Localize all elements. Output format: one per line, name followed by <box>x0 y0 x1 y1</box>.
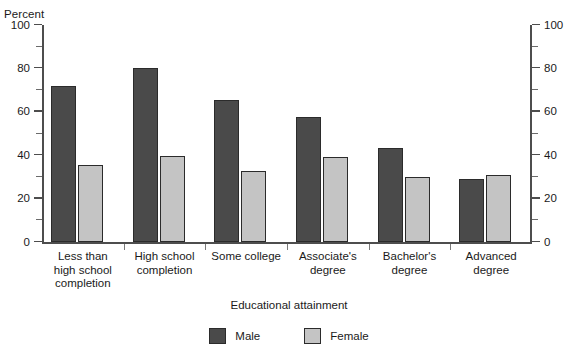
y-tick-right-70 <box>532 89 538 90</box>
x-axis-category-labels: Less than high school completionHigh sch… <box>42 250 532 296</box>
y-tick-label-left-60: 60 <box>17 106 30 118</box>
y-tick-left-20 <box>34 197 42 199</box>
y-axis-left-line <box>42 25 44 242</box>
y-tick-left-90 <box>36 46 42 47</box>
y-tick-right-90 <box>532 46 538 47</box>
y-tick-left-10 <box>36 219 42 220</box>
chart-legend: MaleFemale <box>0 328 578 344</box>
bar-male-1 <box>133 68 158 242</box>
bar-male-2 <box>214 100 239 242</box>
y-tick-left-100 <box>34 24 42 26</box>
y-axis-right-line <box>530 25 532 242</box>
bar-male-5 <box>459 179 484 242</box>
y-tick-label-right-60: 60 <box>544 106 557 118</box>
x-axis-title: Educational attainment <box>0 299 578 311</box>
y-tick-right-10 <box>532 219 538 220</box>
x-category-label-5: Advanced degree <box>450 250 532 277</box>
y-tick-right-0 <box>532 241 540 243</box>
legend-swatch-male <box>209 328 226 344</box>
bar-female-0 <box>78 165 103 242</box>
y-tick-label-left-80: 80 <box>17 63 30 75</box>
y-tick-label-left-0: 0 <box>24 237 30 249</box>
bar-male-0 <box>51 86 76 242</box>
x-category-label-2: Some college <box>205 250 287 264</box>
y-tick-label-left-100: 100 <box>11 20 30 32</box>
plot-area: 002020404060608080100100 <box>42 25 532 242</box>
y-tick-left-40 <box>34 154 42 156</box>
cropped-header-text <box>0 0 578 6</box>
bar-female-5 <box>486 175 511 242</box>
y-tick-right-20 <box>532 197 540 199</box>
y-tick-label-right-80: 80 <box>544 63 557 75</box>
y-tick-left-0 <box>34 241 42 243</box>
y-tick-left-80 <box>34 67 42 69</box>
bar-male-4 <box>378 148 403 242</box>
y-tick-right-40 <box>532 154 540 156</box>
y-tick-right-30 <box>532 176 538 177</box>
y-tick-label-left-40: 40 <box>17 150 30 162</box>
bar-male-3 <box>296 117 321 242</box>
y-tick-left-70 <box>36 89 42 90</box>
bar-female-4 <box>405 177 430 242</box>
y-tick-label-left-20: 20 <box>17 193 30 205</box>
y-tick-label-right-20: 20 <box>544 193 557 205</box>
y-tick-right-60 <box>532 110 540 112</box>
bar-female-3 <box>323 157 348 242</box>
y-tick-left-50 <box>36 133 42 134</box>
x-category-label-3: Associate's degree <box>287 250 369 277</box>
y-tick-label-right-100: 100 <box>544 20 563 32</box>
x-category-label-4: Bachelor's degree <box>369 250 451 277</box>
bar-female-1 <box>160 156 185 242</box>
x-category-label-0: Less than high school completion <box>42 250 124 291</box>
legend-swatch-female <box>304 328 321 344</box>
y-tick-right-100 <box>532 24 540 26</box>
y-tick-label-right-40: 40 <box>544 150 557 162</box>
y-tick-left-60 <box>34 110 42 112</box>
bar-female-2 <box>241 171 266 242</box>
bar-chart: Percent 002020404060608080100100 Less th… <box>0 0 578 355</box>
legend-item-female[interactable]: Female <box>304 328 368 344</box>
legend-label-male: Male <box>235 330 260 342</box>
x-category-label-1: High school completion <box>124 250 206 277</box>
y-tick-left-30 <box>36 176 42 177</box>
y-tick-label-right-0: 0 <box>544 237 550 249</box>
y-tick-right-80 <box>532 67 540 69</box>
legend-label-female: Female <box>330 330 368 342</box>
y-tick-right-50 <box>532 133 538 134</box>
legend-item-male[interactable]: Male <box>209 328 260 344</box>
